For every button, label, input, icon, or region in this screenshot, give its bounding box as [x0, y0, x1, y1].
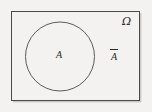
universal-set-label: Ω: [122, 16, 131, 27]
set-a-complement-label: A: [110, 49, 118, 62]
complement-overbar: [110, 49, 118, 50]
set-a-label: A: [56, 50, 62, 60]
venn-diagram-figure: Ω A A: [0, 0, 152, 112]
complement-letter: A: [110, 52, 118, 62]
